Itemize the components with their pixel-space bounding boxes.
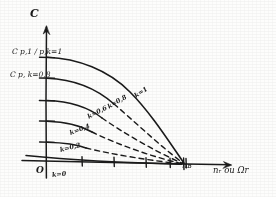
x-axis-label: nᵣ ou Ωr bbox=[213, 166, 249, 175]
curve-k-0-4 bbox=[47, 121, 183, 164]
convergence-label-nb: nʙ bbox=[182, 162, 192, 170]
x-axis bbox=[22, 161, 232, 169]
y-intercept-label-cp08: C p, k=0,8 bbox=[10, 71, 50, 79]
y-axis-label: C bbox=[30, 8, 39, 19]
curve-label-k-0: k=0 bbox=[52, 171, 67, 179]
y-intercept-label-cp1-line1: C p,1 / p,k=1 bbox=[12, 48, 62, 56]
origin-label: O bbox=[36, 166, 44, 175]
